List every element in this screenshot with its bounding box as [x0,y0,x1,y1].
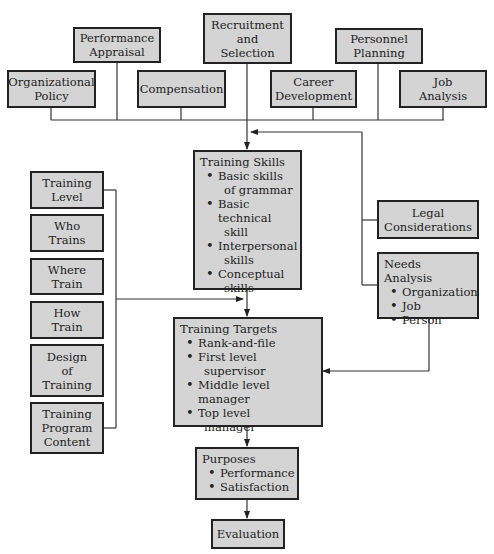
box-design-of-training: Design of Training [30,344,104,397]
box-label: Policy [34,89,69,103]
box-label: Design [47,350,87,364]
box-purposes: Purposes Performance Satisfaction [195,447,299,500]
box-recruitment-selection: Recruitment and Selection [203,13,292,64]
box-label: Compensation [140,82,224,96]
list-item: Interpersonalskills [206,239,295,267]
box-where-train: Where Train [30,258,104,295]
box-training-level: Training Level [30,171,104,209]
box-how-train: How Train [30,301,104,339]
list-item: Basic technicalskill [206,197,295,239]
list-item: Middle level manager [186,378,316,406]
box-title: Training Skills [200,155,295,169]
box-label: and [237,32,259,46]
box-label: Development [275,89,352,103]
box-label: Training [42,176,92,190]
box-training-targets: Training Targets Rank-and-file First lev… [173,317,323,427]
list-item: Rank-and-file [186,336,316,350]
box-career-development: Career Development [270,70,357,108]
list-item: Organization [390,285,472,299]
box-label: Appraisal [89,45,145,59]
box-label: Planning [353,46,405,60]
list-item: Satisfaction [208,480,292,494]
box-title: Needs Analysis [384,257,472,285]
box-label: Training [42,407,92,421]
box-label: Considerations [384,220,472,234]
box-label: Legal [412,206,444,220]
box-label: Evaluation [217,527,279,541]
box-evaluation: Evaluation [211,519,285,549]
box-label: Performance [80,31,155,45]
box-label: Train [51,320,82,334]
list-item: Basic skillsof grammar [206,169,295,197]
box-who-trains: Who Trains [30,214,104,252]
box-training-program-content: Training Program Content [30,402,104,454]
list-item: Performance [208,466,292,480]
list-item: Top levelmanager [186,406,316,434]
box-label: Career [293,75,333,89]
box-performance-appraisal: Performance Appraisal [73,27,161,63]
box-title: Training Targets [180,322,316,336]
box-label: Job [434,75,453,89]
needs-list: Organization Job Person [384,285,472,327]
box-organizational-policy: Organizational Policy [7,70,96,108]
box-label: Trains [48,233,85,247]
box-label: Training [42,378,92,392]
box-label: Recruitment [211,18,284,32]
box-label: Program [42,421,93,435]
box-legal-considerations: Legal Considerations [377,200,479,239]
list-item: First levelsupervisor [186,350,316,378]
box-label: Who [54,219,80,233]
box-personnel-planning: Personnel Planning [335,28,423,64]
box-label: Organizational [8,75,94,89]
box-label: Level [51,190,82,204]
box-compensation: Compensation [137,70,226,108]
box-label: Train [51,277,82,291]
box-label: How [54,306,81,320]
box-job-analysis: Job Analysis [399,70,487,108]
list-item: Person [390,313,472,327]
box-label: Analysis [419,89,467,103]
list-item: Conceptualskills [206,267,295,295]
box-label: Personnel [350,32,408,46]
box-label: Content [44,435,91,449]
list-item: Job [390,299,472,313]
box-needs-analysis: Needs Analysis Organization Job Person [377,252,479,319]
box-label: Selection [220,46,274,60]
box-label: Where [48,263,86,277]
box-training-skills: Training Skills Basic skillsof grammar B… [193,150,302,290]
box-title: Purposes [202,452,292,466]
purposes-list: Performance Satisfaction [202,466,292,494]
targets-list: Rank-and-file First levelsupervisor Midd… [180,336,316,434]
box-label: of [61,364,72,378]
skills-list: Basic skillsof grammar Basic technicalsk… [200,169,295,295]
